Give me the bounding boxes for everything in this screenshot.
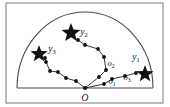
path-node — [96, 47, 100, 51]
path-node — [64, 76, 68, 80]
path-path-y3 — [45, 58, 85, 88]
path-nodes-layer — [43, 38, 138, 90]
label-y3: y3 — [47, 44, 55, 55]
semicircular-region-diagram: y1y2y3o1o2o3O — [0, 0, 170, 107]
label-y1: y1 — [131, 52, 139, 63]
path-node — [83, 43, 87, 47]
path-node — [56, 70, 60, 74]
origin-node — [83, 86, 87, 90]
path-node — [48, 69, 52, 73]
label-o1: o1 — [108, 76, 115, 87]
label-o3: o3 — [123, 72, 130, 83]
path-edges-layer — [45, 40, 136, 88]
labels-layer: y1y2y3o1o2o3O — [47, 27, 139, 103]
path-node — [97, 75, 101, 79]
figure-container: y1y2y3o1o2o3O — [0, 0, 170, 107]
label-y2: y2 — [79, 27, 87, 38]
label-o2: o2 — [107, 58, 114, 69]
path-node — [102, 55, 106, 59]
path-node — [74, 79, 78, 83]
path-node — [104, 68, 108, 72]
label-origin: O — [82, 93, 89, 103]
path-node — [76, 38, 80, 42]
path-node — [44, 60, 48, 64]
path-path-y2 — [78, 40, 106, 88]
path-node — [102, 82, 106, 86]
